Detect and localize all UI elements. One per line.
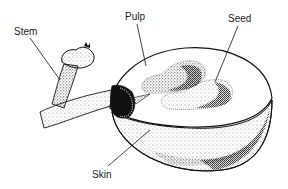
label-pulp: Pulp [125, 11, 145, 22]
leader-stem [30, 38, 60, 80]
leader-pulp [137, 24, 146, 66]
fruit-diagram [0, 0, 288, 189]
label-stem: Stem [14, 26, 37, 37]
label-skin: Skin [92, 169, 111, 180]
label-seed: Seed [228, 13, 251, 24]
